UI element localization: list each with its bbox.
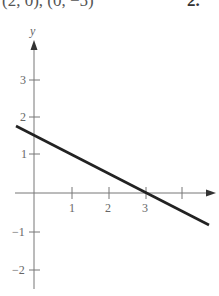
y-tick-label-3: 3 [20, 73, 26, 87]
y-tick-label-2: 2 [20, 110, 26, 124]
y-axis-arrow-icon [31, 40, 38, 50]
x-tick-label-1: 1 [69, 201, 75, 215]
y-axis-label: y [29, 24, 36, 38]
y-tick-label-neg1: −1 [12, 225, 25, 239]
x-tick-label-2: 2 [105, 201, 111, 215]
x-tick-label-3: 3 [142, 201, 148, 215]
y-tick-label-1: 1 [21, 147, 27, 161]
y-tick-label-neg2: −2 [12, 263, 25, 277]
graph-line [16, 126, 209, 225]
line-graph: y 1 2 3 3 2 1 −1 −2 [0, 0, 219, 296]
x-axis-arrow-icon [206, 190, 216, 197]
